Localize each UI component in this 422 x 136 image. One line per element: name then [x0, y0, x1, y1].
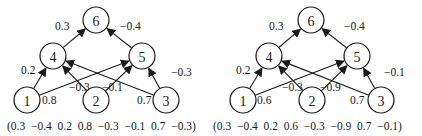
network-a-weight-label-3-4: 0.7: [137, 94, 152, 106]
node-label: 6: [308, 14, 315, 29]
network-a-node-5: 5: [129, 43, 155, 69]
node-label: 6: [93, 14, 100, 29]
network-a-weight-label-5-6: −0.4: [120, 20, 141, 32]
network-b-weight-label-1-5: 0.6: [257, 94, 272, 106]
neural-network-diagrams: 123456123456 0.3−0.40.20.8−0.3−0.10.7−0.…: [0, 0, 422, 136]
network-a-weight-label-2-4: −0.3: [69, 81, 90, 93]
network-a-weight-vector-caption: (0.3 −0.4 0.2 0.8 −0.3 −0.1 0.7 −0.3): [7, 120, 196, 133]
network-a-weight-label-3-5: −0.3: [171, 66, 192, 78]
network-b-weight-label-2-4: −0.3: [282, 81, 303, 93]
network-a-node-1: 1: [14, 87, 40, 113]
network-b-node-5: 5: [344, 43, 370, 69]
network-b-weight-label-2-5: −0.9: [320, 81, 341, 93]
network-b-node-6: 6: [298, 7, 324, 33]
network-a-weight-label-1-4: 0.2: [21, 64, 36, 76]
network-b-edge-1-to-4: [250, 68, 262, 89]
network-b-weight-label-1-4: 0.2: [236, 64, 251, 76]
node-label: 1: [240, 94, 247, 109]
network-b-weight-label-4-6: 0.3: [269, 20, 284, 32]
node-label: 3: [378, 94, 385, 109]
node-label: 4: [50, 50, 57, 65]
network-b-node-1: 1: [230, 87, 256, 113]
node-label: 5: [139, 50, 146, 65]
network-a-weight-label-1-5: 0.8: [42, 94, 57, 106]
network-b-node-3: 3: [368, 87, 394, 113]
network-a-node-6: 6: [83, 7, 109, 33]
node-label: 2: [309, 94, 316, 109]
network-a-edge-3-to-5: [149, 68, 160, 88]
network-b-weight-vector-caption: (0.3 −0.4 0.2 0.6 −0.3 −0.9 0.7 −0.1): [213, 120, 402, 133]
network-b-weight-label-3-4: 0.7: [350, 94, 365, 106]
network-b-weight-label-5-6: −0.4: [344, 20, 365, 32]
network-a-edge-1-to-4: [34, 68, 46, 89]
network-a-node-3: 3: [153, 87, 179, 113]
node-label: 2: [93, 94, 100, 109]
network-b-node-4: 4: [256, 43, 282, 69]
network-a-node-4: 4: [40, 43, 66, 69]
network-a-weight-label-4-6: 0.3: [55, 20, 70, 32]
node-label: 4: [266, 50, 273, 65]
network-b-edge-3-to-5: [364, 68, 375, 88]
node-label: 3: [163, 94, 170, 109]
node-label: 1: [24, 94, 31, 109]
node-label: 5: [354, 50, 361, 65]
network-b-weight-label-3-5: −0.1: [384, 66, 405, 78]
network-a-weight-label-2-5: −0.1: [102, 81, 123, 93]
